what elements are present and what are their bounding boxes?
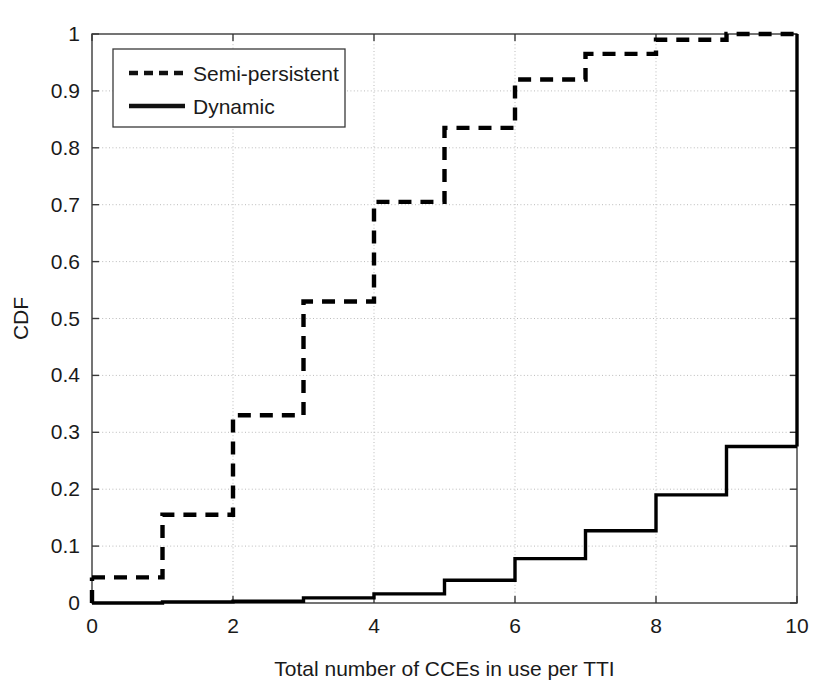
ytick-label: 1 bbox=[68, 22, 80, 45]
chart-figure: 024681000.10.20.30.40.50.60.70.80.91 Tot… bbox=[0, 0, 834, 691]
xtick-label: 8 bbox=[650, 614, 662, 637]
chart-legend[interactable]: Semi-persistentDynamic bbox=[113, 49, 345, 127]
ytick-label: 0.6 bbox=[51, 250, 80, 273]
legend-label-0: Semi-persistent bbox=[193, 62, 339, 85]
xtick-label: 4 bbox=[368, 614, 380, 637]
ytick-label: 0.8 bbox=[51, 136, 80, 159]
ytick-label: 0.5 bbox=[51, 307, 80, 330]
ytick-label: 0.9 bbox=[51, 79, 80, 102]
ytick-label: 0.2 bbox=[51, 477, 80, 500]
xtick-label: 10 bbox=[785, 614, 808, 637]
cdf-plot: 024681000.10.20.30.40.50.60.70.80.91 Tot… bbox=[0, 0, 834, 691]
x-axis-title: Total number of CCEs in use per TTI bbox=[274, 657, 614, 680]
xtick-label: 0 bbox=[86, 614, 98, 637]
xtick-label: 6 bbox=[509, 614, 521, 637]
ytick-label: 0 bbox=[68, 591, 80, 614]
legend-label-1: Dynamic bbox=[193, 95, 275, 118]
xtick-label: 2 bbox=[227, 614, 239, 637]
ytick-label: 0.4 bbox=[51, 363, 81, 386]
ytick-label: 0.3 bbox=[51, 420, 80, 443]
ytick-label: 0.1 bbox=[51, 534, 80, 557]
ytick-label: 0.7 bbox=[51, 193, 80, 216]
y-axis-title: CDF bbox=[9, 297, 32, 340]
